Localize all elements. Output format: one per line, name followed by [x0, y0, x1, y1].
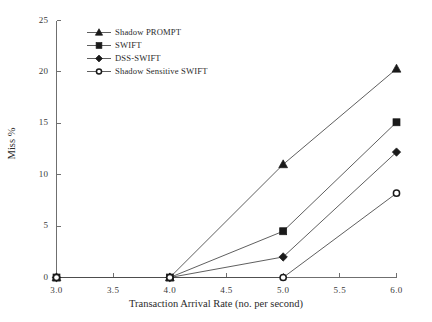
series-line — [57, 193, 397, 277]
data-point-marker-square-filled — [393, 119, 400, 126]
legend-item-label: DSS-SWIFT — [112, 53, 161, 64]
data-point-marker-triangle-filled — [95, 29, 102, 35]
series-line — [57, 69, 397, 278]
x-tick-label: 4.5 — [207, 285, 247, 295]
legend-marker-circle-open — [86, 66, 112, 77]
x-axis-title: Transaction Arrival Rate (no. per second… — [0, 298, 432, 309]
legend-item-label: Shadow Sensitive SWIFT — [112, 66, 208, 77]
y-tick-label: 25 — [23, 15, 49, 25]
legend-item: Shadow PROMPT — [86, 27, 208, 38]
legend-item: Shadow Sensitive SWIFT — [86, 66, 208, 77]
y-tick-label: 15 — [23, 117, 49, 127]
legend-marker-triangle-filled — [86, 27, 112, 38]
data-point-marker-triangle-filled — [279, 160, 288, 168]
data-point-marker-diamond-filled — [96, 55, 103, 62]
series-lines-group — [57, 69, 397, 278]
x-tick-label: 4.0 — [150, 285, 190, 295]
legend-item-label: Shadow PROMPT — [112, 27, 181, 38]
plot-area — [0, 0, 432, 322]
chart-container: 0510152025 3.03.54.04.55.05.56.0 Miss % … — [0, 0, 432, 322]
legend-marker-diamond-filled — [86, 53, 112, 64]
data-point-marker-circle-open — [167, 274, 173, 280]
data-point-marker-triangle-filled — [392, 64, 401, 72]
y-tick-label: 10 — [23, 169, 49, 179]
x-tick-label: 3.0 — [37, 285, 77, 295]
y-axis-title: Miss % — [6, 114, 17, 174]
legend-marker-square-filled — [86, 40, 112, 51]
data-point-marker-square-filled — [96, 43, 102, 49]
x-tick-label: 5.0 — [263, 285, 303, 295]
data-point-marker-circle-open — [53, 274, 59, 280]
x-tick-label: 5.5 — [320, 285, 360, 295]
data-point-marker-square-filled — [280, 228, 287, 235]
series-line — [57, 122, 397, 277]
y-tick-label: 0 — [23, 272, 49, 282]
legend-item: SWIFT — [86, 40, 208, 51]
x-tick-label: 6.0 — [377, 285, 417, 295]
data-point-marker-circle-open — [393, 190, 399, 196]
series-markers-group — [52, 64, 401, 281]
y-tick-label: 20 — [23, 66, 49, 76]
x-tick-label: 3.5 — [93, 285, 133, 295]
legend-item: DSS-SWIFT — [86, 53, 208, 64]
data-point-marker-circle-open — [96, 69, 101, 74]
chart-legend: Shadow PROMPTSWIFTDSS-SWIFTShadow Sensit… — [86, 27, 208, 77]
legend-item-label: SWIFT — [112, 40, 142, 51]
y-tick-label: 5 — [23, 220, 49, 230]
data-point-marker-circle-open — [280, 274, 286, 280]
